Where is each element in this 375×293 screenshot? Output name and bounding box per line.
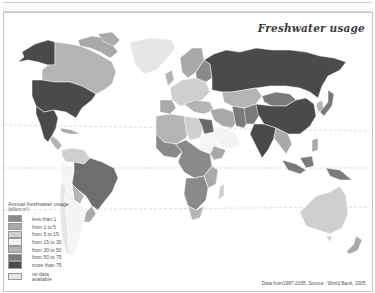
legend-label: less than 1	[32, 216, 56, 222]
legend-unit: (billion m³)	[8, 207, 88, 212]
legend-swatch	[8, 238, 22, 245]
europe	[160, 48, 214, 114]
legend-label: from 50 to 75	[32, 254, 61, 260]
region-india	[250, 124, 276, 158]
asia	[204, 48, 352, 180]
north-america	[18, 32, 175, 150]
legend-item: from 30 to 50	[8, 246, 88, 254]
legend-swatch	[8, 273, 22, 280]
legend-swatch	[8, 261, 22, 268]
legend-swatch	[8, 246, 22, 253]
region-new-zealand	[346, 236, 362, 254]
region-tasmania	[326, 236, 332, 242]
region-mexico	[36, 106, 58, 142]
legend-swatch	[8, 254, 22, 261]
region-greenland	[130, 38, 175, 74]
map-title: Freshwater usage	[258, 22, 365, 34]
legend-swatch	[8, 231, 22, 238]
region-borneo	[300, 156, 314, 168]
legend-label: from 1 to 5	[32, 224, 56, 230]
region-australia	[300, 186, 348, 234]
legend-item: less than 1	[8, 215, 88, 223]
legend-label: no data available	[32, 272, 62, 283]
legend-item: more than 75	[8, 261, 88, 269]
region-iberia	[160, 100, 176, 114]
region-caribbean	[60, 128, 80, 134]
legend-item-no-data: no data available	[8, 272, 88, 283]
map-legend: Annual freshwater usage (billion m³) les…	[8, 201, 88, 283]
region-colombia-venezuela	[62, 148, 90, 164]
legend-label: from 15 to 30	[32, 239, 61, 245]
region-alaska	[18, 40, 55, 65]
legend-item: from 5 to 15	[8, 230, 88, 238]
legend-label: from 5 to 15	[32, 231, 59, 237]
legend-swatch	[8, 223, 22, 230]
region-madagascar	[218, 184, 224, 200]
legend-item: from 50 to 75	[8, 253, 88, 261]
legend-item: from 15 to 30	[8, 238, 88, 246]
region-uk	[165, 70, 174, 86]
legend-label: from 30 to 50	[32, 247, 61, 253]
oceania	[300, 186, 362, 254]
region-southern-africa	[184, 176, 208, 210]
legend-label: more than 75	[32, 262, 61, 268]
region-central-america	[50, 136, 62, 150]
region-russia	[204, 48, 346, 98]
legend-swatch	[8, 215, 22, 222]
legend-item: from 1 to 5	[8, 223, 88, 231]
region-philippines	[312, 138, 318, 152]
region-new-guinea	[326, 168, 352, 180]
source-note: Data from1987-2005. Source : World Bank,…	[262, 281, 367, 286]
